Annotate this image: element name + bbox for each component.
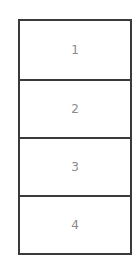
cell-label: 4 <box>71 218 79 232</box>
stack-cell-2: 2 <box>20 79 130 137</box>
cell-label: 1 <box>71 43 79 57</box>
stack-cell-3: 3 <box>20 137 130 195</box>
cell-label: 3 <box>71 160 79 174</box>
stack-cell-1: 1 <box>20 21 130 79</box>
stack-diagram: 1 2 3 4 <box>18 19 132 255</box>
cell-label: 2 <box>71 102 79 116</box>
stack-cell-4: 4 <box>20 195 130 253</box>
